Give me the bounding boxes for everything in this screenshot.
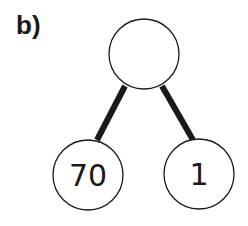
edge-right: [162, 86, 193, 140]
right-child-value: 1: [189, 157, 208, 192]
left-child-value: 70: [69, 158, 107, 193]
edge-left: [97, 86, 125, 140]
root-node[interactable]: [109, 19, 179, 89]
number-bond-diagram: 70 1: [0, 0, 248, 226]
